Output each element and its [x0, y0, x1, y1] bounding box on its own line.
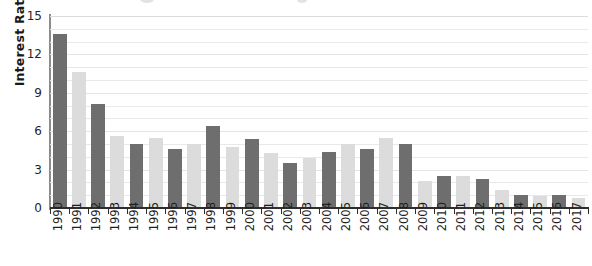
y-axis-tick-label: 15: [0, 9, 42, 23]
bar-slot: [108, 16, 127, 208]
x-label-slot: 2005: [338, 214, 357, 266]
x-label-slot: 2011: [454, 214, 473, 266]
bar-2006[interactable]: [360, 149, 374, 208]
bar-slot: [223, 16, 242, 208]
x-axis-tick-label: 2013: [493, 202, 507, 248]
x-axis-tick-label: 2008: [397, 202, 411, 248]
bar-1991[interactable]: [72, 72, 86, 208]
bar-1998[interactable]: [206, 126, 220, 208]
x-label-slot: 2002: [281, 214, 300, 266]
x-axis-tick-label: 1992: [89, 202, 103, 248]
y-axis-tick-label: 12: [0, 47, 42, 61]
bar-slot: [204, 16, 223, 208]
bar-2001[interactable]: [264, 153, 278, 208]
x-axis-tick-label: 1999: [224, 202, 238, 248]
x-axis-tick-label: 1996: [166, 202, 180, 248]
bar-slot: [338, 16, 357, 208]
x-axis-tick-label: 2015: [531, 202, 545, 248]
bar-1993[interactable]: [110, 136, 124, 208]
x-label-slot: 2004: [319, 214, 338, 266]
x-label-slot: 1995: [146, 214, 165, 266]
bar-chart: Interest Rate (%) 03691215 1990199119921…: [0, 0, 592, 266]
bar-slot: [396, 16, 415, 208]
bar-2005[interactable]: [341, 144, 355, 208]
bar-slot: [473, 16, 492, 208]
x-label-slot: 1999: [223, 214, 242, 266]
x-label-slot: 1990: [50, 214, 69, 266]
bar-2008[interactable]: [399, 144, 413, 208]
x-label-slot: 2015: [530, 214, 549, 266]
bar-slot: [358, 16, 377, 208]
x-axis-tick-label: 2004: [320, 202, 334, 248]
x-label-slot: 1992: [88, 214, 107, 266]
bar-2007[interactable]: [379, 138, 393, 208]
x-axis-tick-label: 2003: [300, 202, 314, 248]
bar-1992[interactable]: [91, 104, 105, 208]
x-axis-tick-label: 1990: [51, 202, 65, 248]
bar-2000[interactable]: [245, 139, 259, 208]
bar-slot: [319, 16, 338, 208]
x-label-slot: 2009: [415, 214, 434, 266]
bar-slot: [454, 16, 473, 208]
x-axis-tick-label: 1998: [204, 202, 218, 248]
bar-slot: [434, 16, 453, 208]
y-axis-tick-label: 9: [0, 86, 42, 100]
x-label-slot: 1996: [165, 214, 184, 266]
x-axis-tick-label: 2017: [570, 202, 584, 248]
x-label-slot: 1997: [185, 214, 204, 266]
y-axis-tick-label: 6: [0, 124, 42, 138]
x-label-slot: 2008: [396, 214, 415, 266]
y-axis-tick-label: 0: [0, 201, 42, 215]
x-axis-tick-label: 2009: [416, 202, 430, 248]
y-axis-tick-labels: 03691215: [0, 16, 44, 208]
x-axis-tick-label: 1994: [127, 202, 141, 248]
y-axis-tick-label: 3: [0, 163, 42, 177]
bar-slot: [242, 16, 261, 208]
cropped-title-remnant: [0, 0, 592, 7]
bar-slot: [88, 16, 107, 208]
x-axis-tick-label: 2007: [377, 202, 391, 248]
x-label-slot: 1991: [69, 214, 88, 266]
bar-slot: [69, 16, 88, 208]
bar-2004[interactable]: [322, 152, 336, 208]
x-axis-tick-label: 2016: [550, 202, 564, 248]
bar-slot: [377, 16, 396, 208]
bar-slot: [415, 16, 434, 208]
crop-smudge: [140, 0, 154, 3]
x-axis-tick-label: 1993: [108, 202, 122, 248]
x-label-slot: 2000: [242, 214, 261, 266]
bar-slot: [550, 16, 569, 208]
x-axis-tick-label: 1991: [70, 202, 84, 248]
bar-slot: [50, 16, 69, 208]
bar-1999[interactable]: [226, 147, 240, 208]
bar-1997[interactable]: [187, 144, 201, 208]
bar-1995[interactable]: [149, 138, 163, 208]
x-axis-tick-label: 2014: [512, 202, 526, 248]
x-axis-tick-label: 2012: [473, 202, 487, 248]
x-label-slot: 2007: [377, 214, 396, 266]
x-axis-tick-label: 1995: [147, 202, 161, 248]
x-axis-tick-label: 2002: [281, 202, 295, 248]
bar-slot: [530, 16, 549, 208]
bar-slot: [146, 16, 165, 208]
bar-2003[interactable]: [303, 158, 317, 208]
crop-smudge: [297, 0, 307, 3]
x-axis-tick-label: 2005: [339, 202, 353, 248]
x-axis-tick-label: 2006: [358, 202, 372, 248]
x-label-slot: 1994: [127, 214, 146, 266]
x-label-slot: 2001: [261, 214, 280, 266]
bar-slot: [165, 16, 184, 208]
bar-1990[interactable]: [53, 34, 67, 208]
bar-1994[interactable]: [130, 144, 144, 208]
bar-slot: [492, 16, 511, 208]
x-label-slot: 2010: [434, 214, 453, 266]
bar-slot: [281, 16, 300, 208]
x-axis-tick-label: 2001: [262, 202, 276, 248]
bars-container: [50, 16, 588, 208]
x-axis-tick-label: 2010: [435, 202, 449, 248]
bar-slot: [300, 16, 319, 208]
x-label-slot: 2012: [473, 214, 492, 266]
bar-slot: [127, 16, 146, 208]
x-axis-tick-label: 2000: [243, 202, 257, 248]
bar-1996[interactable]: [168, 149, 182, 208]
